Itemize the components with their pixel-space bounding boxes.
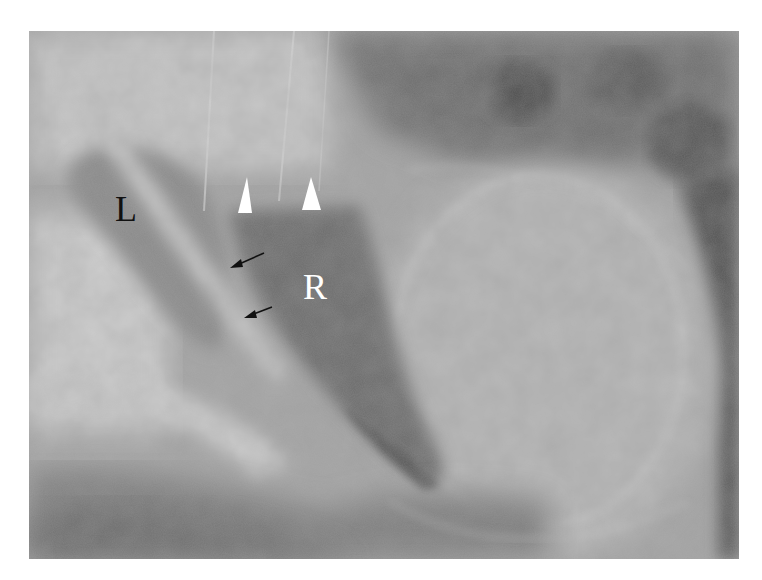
xray-image: L R: [29, 31, 739, 559]
label-right-chamber: R: [303, 269, 327, 305]
label-left-chamber: L: [115, 191, 137, 227]
xray-texture: [29, 31, 739, 559]
